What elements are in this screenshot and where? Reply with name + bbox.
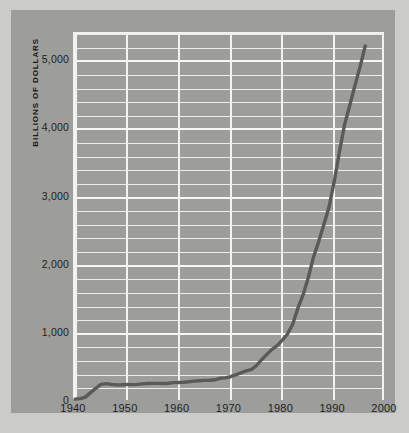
plot-area [73, 32, 384, 400]
x-axis-tick-labels: 1940195019601970198019902000 [73, 402, 393, 422]
y-tick-label: 5,000 [42, 53, 69, 65]
chart-panel: BILLIONS OF DOLLARS 01,0002,0003,0004,00… [11, 10, 395, 413]
x-tick-label: 2000 [371, 402, 396, 414]
y-tick-label: 3,000 [42, 190, 69, 202]
x-tick-label: 1940 [60, 402, 85, 414]
x-tick-label: 1950 [112, 402, 137, 414]
x-tick-label: 1960 [164, 402, 189, 414]
x-tick-label: 1990 [320, 402, 345, 414]
x-tick-label: 1970 [216, 402, 241, 414]
series-total-debt [75, 46, 365, 399]
x-tick-label: 1980 [268, 402, 293, 414]
chart-figure: BILLIONS OF DOLLARS 01,0002,0003,0004,00… [0, 0, 409, 433]
y-tick-label: 2,000 [42, 258, 69, 270]
y-tick-label: 1,000 [42, 326, 69, 338]
data-line-svg [75, 34, 386, 402]
y-tick-label: 4,000 [42, 121, 69, 133]
y-axis-tick-labels: 01,0002,0003,0004,0005,000 [11, 32, 69, 400]
